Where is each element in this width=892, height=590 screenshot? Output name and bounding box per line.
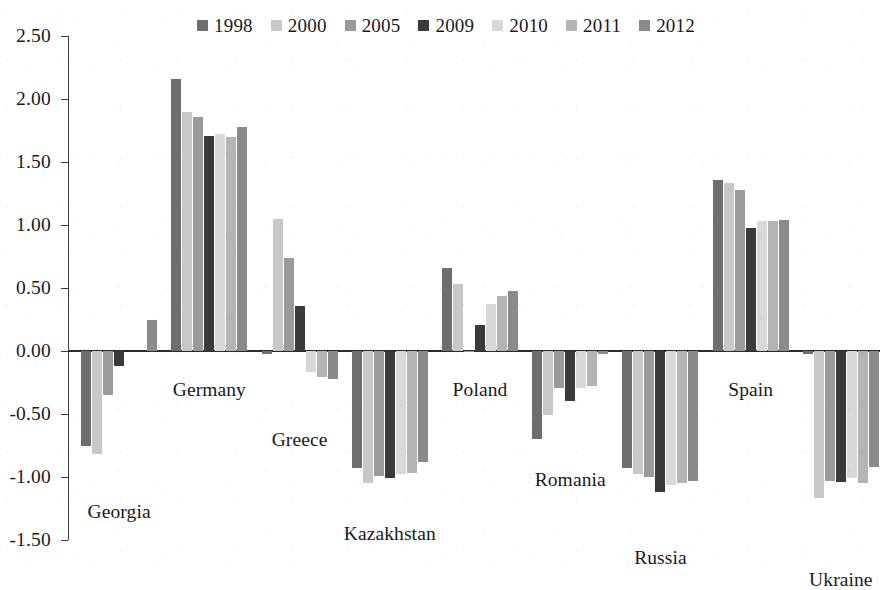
bar-georgia-1998 [81,351,91,446]
legend-swatch-icon [492,20,503,31]
category-label-kazakhstan: Kazakhstan [344,523,436,545]
bar-russia-2000 [633,351,643,474]
plot-area: 2.502.001.501.000.500.00-0.50-1.00-1.50G… [68,36,880,540]
bar-romania-1998 [532,351,542,439]
y-axis-tick: -1.00 [61,477,68,478]
bar-germany-1998 [171,79,181,351]
bar-kazakhstan-1998 [352,351,362,468]
category-label-georgia: Georgia [88,501,151,523]
bar-spain-2005 [735,190,745,351]
bar-germany-2012 [237,127,247,351]
legend-item-1998[interactable]: 1998 [197,16,253,35]
y-axis-tick: 0.50 [61,288,68,289]
bar-ukraine-2009 [836,351,846,482]
legend-item-2011[interactable]: 2011 [566,16,621,35]
bar-georgia-2000 [92,351,102,454]
bar-group-poland [442,36,518,540]
bar-russia-2012 [688,351,698,481]
bar-poland-2010 [486,304,496,351]
bar-poland-2009 [475,325,485,351]
bar-spain-2011 [768,221,778,351]
bar-group-germany [171,36,247,540]
bar-greece-2012 [328,351,338,379]
legend-swatch-icon [271,20,282,31]
bar-spain-2000 [724,183,734,351]
legend-swatch-icon [639,20,650,31]
bar-greece-2000 [273,219,283,351]
y-axis-tick: 0.00 [61,351,68,352]
bar-spain-1998 [713,180,723,351]
legend-label: 2010 [509,16,548,35]
bar-ukraine-2012 [869,351,879,467]
bar-ukraine-2005 [825,351,835,481]
bar-russia-2010 [666,351,676,485]
y-axis-tick: -0.50 [61,414,68,415]
bar-poland-2000 [453,284,463,351]
y-axis-tick-label: 1.50 [16,151,51,173]
bar-russia-2009 [655,351,665,492]
bar-kazakhstan-2005 [374,351,384,476]
category-label-spain: Spain [728,379,773,401]
y-axis-tick-label: 2.00 [16,88,51,110]
bar-ukraine-2010 [847,351,857,478]
bar-poland-2005 [464,351,474,352]
bar-greece-2009 [295,306,305,351]
bar-germany-2000 [182,112,192,351]
legend-item-2005[interactable]: 2005 [345,16,401,35]
bar-greece-2010 [306,351,316,372]
bar-kazakhstan-2009 [385,351,395,478]
category-label-ukraine: Ukraine [809,569,873,590]
bar-ukraine-1998 [803,351,813,354]
bar-ukraine-2011 [858,351,868,483]
y-axis-tick-label: -1.00 [9,466,51,488]
y-axis-tick-label: -0.50 [9,403,51,425]
y-axis-tick-label: 0.00 [16,340,51,362]
bar-kazakhstan-2011 [407,351,417,473]
chart-legend: 1998200020052009201020112012 [0,16,892,35]
bar-greece-1998 [262,351,272,354]
bar-group-spain [713,36,789,540]
category-label-greece: Greece [272,429,328,451]
legend-swatch-icon [197,20,208,31]
bar-group-kazakhstan [352,36,428,540]
bar-romania-2011 [587,351,597,386]
bar-germany-2010 [215,134,225,351]
bar-russia-2005 [644,351,654,477]
legend-item-2012[interactable]: 2012 [639,16,695,35]
bar-kazakhstan-2000 [363,351,373,483]
bar-russia-2011 [677,351,687,483]
bar-romania-2000 [543,351,553,415]
bar-spain-2009 [746,228,756,351]
bar-group-romania [532,36,608,540]
legend-label: 2011 [583,16,621,35]
category-label-romania: Romania [535,469,606,491]
bar-spain-2010 [757,221,767,351]
legend-label: 1998 [214,16,253,35]
legend-item-2000[interactable]: 2000 [271,16,327,35]
bar-poland-1998 [442,268,452,351]
bar-group-greece [262,36,338,540]
bar-group-ukraine [803,36,879,540]
category-label-poland: Poland [453,379,508,401]
legend-label: 2000 [288,16,327,35]
y-axis-tick-label: 1.00 [16,214,51,236]
legend-item-2009[interactable]: 2009 [418,16,474,35]
legend-label: 2005 [362,16,401,35]
y-axis-tick: 1.00 [61,225,68,226]
bar-poland-2012 [508,291,518,351]
bar-poland-2011 [497,296,507,351]
legend-swatch-icon [566,20,577,31]
y-axis-tick-label: 2.50 [16,25,51,47]
y-axis-tick-label: 0.50 [16,277,51,299]
bar-germany-2005 [193,117,203,351]
bar-greece-2005 [284,258,294,351]
y-axis-tick: 1.50 [61,162,68,163]
bar-greece-2011 [317,351,327,377]
bar-romania-2012 [598,351,608,354]
legend-label: 2012 [656,16,695,35]
y-axis-tick: -1.50 [61,540,68,541]
bar-kazakhstan-2010 [396,351,406,474]
legend-item-2010[interactable]: 2010 [492,16,548,35]
y-axis-tick-label: -1.50 [9,529,51,551]
